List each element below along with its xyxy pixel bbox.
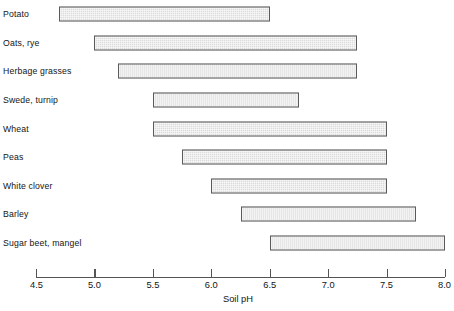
chart-row: Wheat bbox=[0, 114, 454, 143]
range-bar bbox=[270, 236, 445, 251]
category-label: Barley bbox=[3, 209, 29, 219]
range-bar bbox=[241, 207, 416, 222]
chart-row: Barley bbox=[0, 200, 454, 229]
axis-tick bbox=[445, 269, 446, 277]
axis-line bbox=[36, 277, 445, 278]
range-bar bbox=[182, 150, 387, 165]
category-label: Peas bbox=[3, 152, 23, 162]
range-bar bbox=[118, 64, 358, 79]
x-axis: 4.55.05.56.06.57.07.58.0 Soil pH bbox=[0, 266, 454, 311]
axis-tick bbox=[387, 269, 388, 277]
range-bar bbox=[153, 93, 299, 108]
axis-tick-label: 4.5 bbox=[30, 280, 43, 290]
axis-tick bbox=[94, 269, 95, 277]
chart-row: Oats, rye bbox=[0, 29, 454, 58]
axis-tick bbox=[153, 269, 154, 277]
range-bar bbox=[153, 121, 387, 136]
category-label: Oats, rye bbox=[3, 38, 40, 48]
range-bar bbox=[94, 35, 357, 50]
soil-ph-range-chart: PotatoOats, ryeHerbage grassesSwede, tur… bbox=[0, 0, 454, 311]
axis-tick bbox=[36, 269, 37, 277]
axis-tick-label: 7.0 bbox=[322, 280, 335, 290]
category-label: Herbage grasses bbox=[3, 66, 71, 76]
axis-tick-label: 5.5 bbox=[146, 280, 159, 290]
axis-tick-label: 8.0 bbox=[438, 280, 451, 290]
axis-title: Soil pH bbox=[0, 294, 454, 304]
chart-row: Sugar beet, mangel bbox=[0, 229, 454, 258]
chart-row: Herbage grasses bbox=[0, 57, 454, 86]
axis-title-label: Soil pH bbox=[223, 294, 253, 304]
range-bar bbox=[59, 7, 269, 22]
chart-row: Peas bbox=[0, 143, 454, 172]
axis-tick bbox=[328, 269, 329, 277]
axis-tick-label: 6.0 bbox=[205, 280, 218, 290]
axis-tick-label: 7.5 bbox=[380, 280, 393, 290]
chart-row: White clover bbox=[0, 172, 454, 201]
chart-row: Swede, turnip bbox=[0, 86, 454, 115]
category-label: Swede, turnip bbox=[3, 95, 58, 105]
axis-tick bbox=[211, 269, 212, 277]
category-label: Wheat bbox=[3, 124, 29, 134]
category-label: Potato bbox=[3, 9, 29, 19]
range-bar bbox=[211, 178, 386, 193]
chart-row: Potato bbox=[0, 0, 454, 29]
axis-tick-label: 5.0 bbox=[88, 280, 101, 290]
axis-tick bbox=[270, 269, 271, 277]
category-label: White clover bbox=[3, 181, 53, 191]
category-label: Sugar beet, mangel bbox=[3, 238, 82, 248]
axis-tick-label: 6.5 bbox=[263, 280, 276, 290]
